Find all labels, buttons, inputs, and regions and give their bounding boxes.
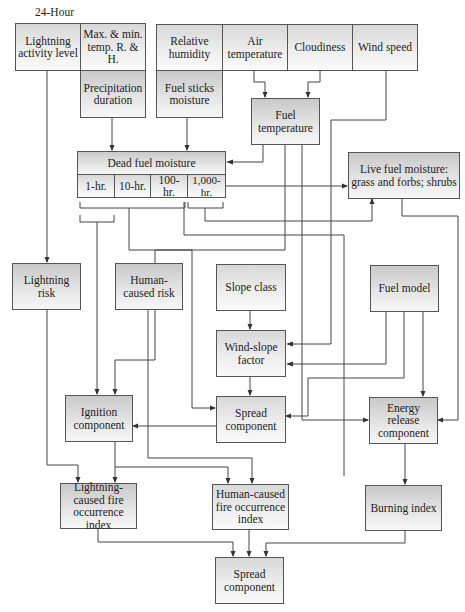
energy-release-component-box: Energy release component <box>369 397 438 444</box>
fire-danger-rating-diagram: 24-Hour Lightning activity level Max. & … <box>0 0 465 612</box>
dead-fuel-1000hr-cell: 1,000-hr. <box>187 174 226 198</box>
relative-humidity-box: Relative humidity <box>156 24 223 71</box>
lightning-activity-level-box: Lightning activity level <box>15 23 81 71</box>
cloudiness-box: Cloudiness <box>287 24 353 71</box>
wind-slope-factor-box: Wind-slope factor <box>216 330 286 377</box>
spread-component-box: Spread component <box>216 396 286 443</box>
air-temperature-box: Air temperature <box>222 24 288 71</box>
human-caused-fire-occurrence-index-box: Human-caused fire occurrence index <box>212 484 289 530</box>
fuel-model-box: Fuel model <box>370 265 439 312</box>
live-fuel-moisture-box: Live fuel moisture: grass and forbs; shr… <box>348 152 460 199</box>
fuel-temperature-box: Fuel temperature <box>251 98 320 145</box>
period-label: 24-Hour <box>35 6 74 18</box>
dead-fuel-100hr-cell: 100-hr. <box>150 174 188 198</box>
burning-index-box: Burning index <box>365 485 442 531</box>
final-spread-component-box: Spread component <box>215 557 284 604</box>
dead-fuel-10hr-cell: 10-hr. <box>114 174 151 198</box>
max-min-temp-box: Max. & min. temp. R. & H. <box>80 23 146 71</box>
human-caused-risk-box: Human-caused risk <box>115 263 183 310</box>
dead-fuel-moisture-box: Dead fuel moisture <box>77 151 226 175</box>
slope-class-box: Slope class <box>216 264 286 311</box>
lightning-risk-box: Lightning risk <box>12 263 81 310</box>
precipitation-duration-box: Precipitation duration <box>80 70 146 118</box>
fuel-sticks-moisture-box: Fuel sticks moisture <box>156 70 223 118</box>
lightning-caused-fire-occurrence-index-box: Lightning-caused fire occurrence index <box>60 483 137 529</box>
wind-speed-box: Wind speed <box>352 24 418 71</box>
ignition-component-box: Ignition component <box>65 395 133 442</box>
dead-fuel-1hr-cell: 1-hr. <box>77 174 115 198</box>
